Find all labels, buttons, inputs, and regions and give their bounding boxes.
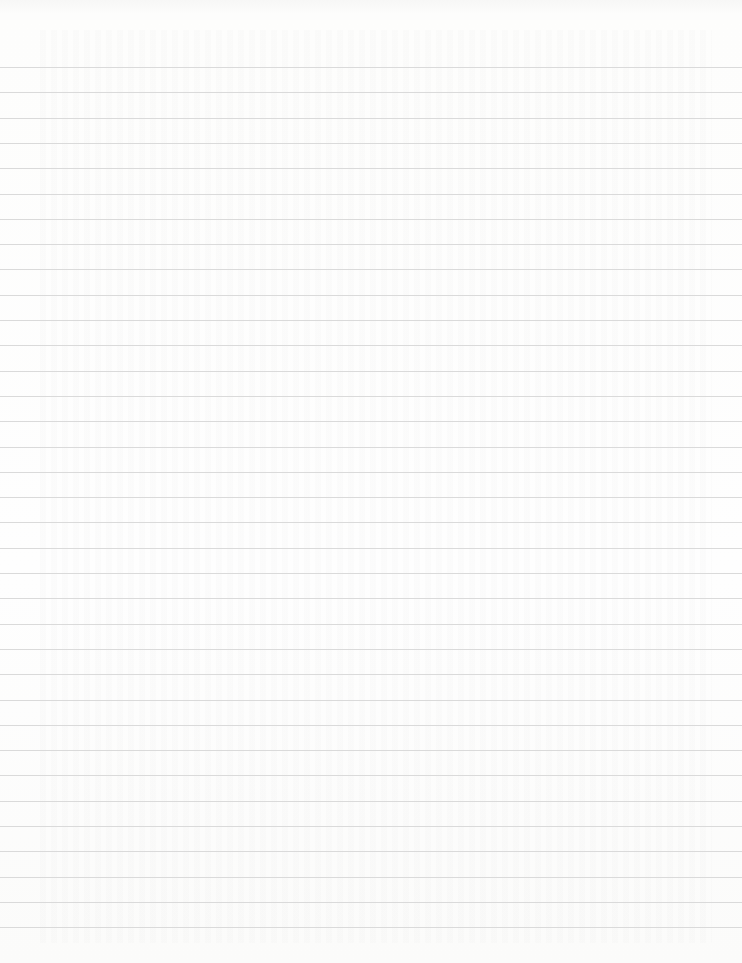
ruled-line xyxy=(0,700,742,701)
ruled-line xyxy=(0,421,742,422)
ruled-line xyxy=(0,143,742,144)
faint-bleed-through xyxy=(40,30,712,943)
ruled-line xyxy=(0,244,742,245)
ruled-line xyxy=(0,548,742,549)
ruled-line xyxy=(0,927,742,928)
ruled-line xyxy=(0,194,742,195)
ruled-line xyxy=(0,67,742,68)
ruled-line xyxy=(0,826,742,827)
ruled-line xyxy=(0,447,742,448)
ruled-line xyxy=(0,472,742,473)
ruled-line xyxy=(0,725,742,726)
ruled-line xyxy=(0,92,742,93)
ruled-line xyxy=(0,624,742,625)
ruled-line xyxy=(0,801,742,802)
ruled-line xyxy=(0,598,742,599)
ruled-line xyxy=(0,750,742,751)
ruled-line xyxy=(0,371,742,372)
ruled-line xyxy=(0,295,742,296)
ruled-paper-sheet xyxy=(0,0,742,963)
ruled-line xyxy=(0,775,742,776)
ruled-line xyxy=(0,522,742,523)
ruled-line xyxy=(0,902,742,903)
ruled-line xyxy=(0,573,742,574)
ruled-line xyxy=(0,877,742,878)
ruled-line xyxy=(0,649,742,650)
ruled-line xyxy=(0,345,742,346)
ruled-line xyxy=(0,674,742,675)
ruled-line xyxy=(0,168,742,169)
ruled-line xyxy=(0,219,742,220)
ruled-line xyxy=(0,320,742,321)
ruled-line xyxy=(0,269,742,270)
ruled-line xyxy=(0,396,742,397)
ruled-line xyxy=(0,497,742,498)
ruled-line xyxy=(0,851,742,852)
ruled-line xyxy=(0,118,742,119)
